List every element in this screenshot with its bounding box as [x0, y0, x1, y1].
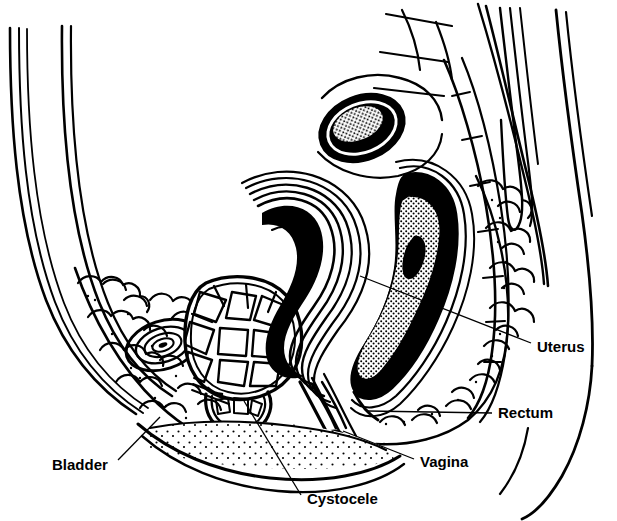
label-cystocele: Cystocele [307, 490, 378, 507]
label-uterus: Uterus [537, 338, 585, 355]
anatomical-figure: Uterus Rectum Vagina Cystocele Bladder [0, 0, 617, 521]
label-bladder: Bladder [52, 456, 108, 473]
label-rectum: Rectum [498, 404, 553, 421]
illustration-canvas: Uterus Rectum Vagina Cystocele Bladder [0, 0, 617, 521]
label-vagina: Vagina [420, 453, 469, 470]
